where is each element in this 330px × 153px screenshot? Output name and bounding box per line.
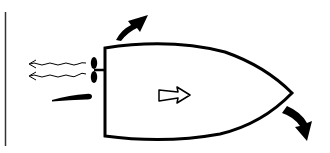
direction-arrow-icon	[159, 87, 190, 103]
bow-turn-arrow-icon	[282, 106, 312, 141]
boat-hull	[105, 44, 292, 140]
propeller-icon	[91, 57, 105, 83]
rudder-icon	[52, 94, 92, 102]
wake-lines-icon	[29, 60, 86, 80]
boat-diagram	[0, 0, 330, 153]
stern-turn-arrow-icon	[116, 15, 148, 41]
diagram-canvas	[0, 0, 330, 153]
